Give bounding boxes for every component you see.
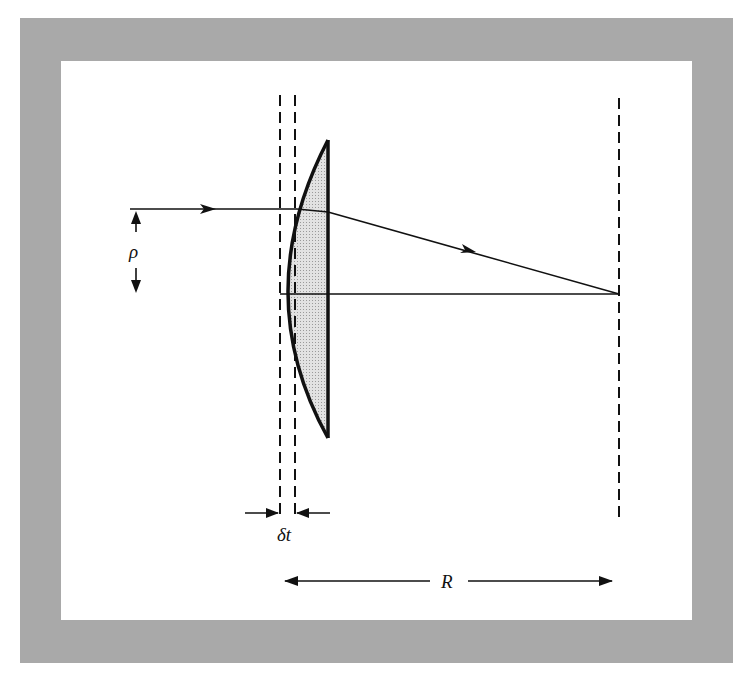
lens-diagram: ρ δt R bbox=[0, 0, 756, 689]
r-arrow-right-icon bbox=[599, 576, 613, 586]
rho-arrow-up-icon bbox=[131, 211, 141, 224]
rho-label: ρ bbox=[128, 241, 138, 262]
refracted-ray-arrow-icon bbox=[460, 244, 476, 253]
r-label: R bbox=[440, 571, 453, 592]
delta-t-arrow-left-icon bbox=[296, 508, 309, 518]
rho-arrow-down-icon bbox=[131, 280, 141, 293]
delta-t-label: δt bbox=[277, 524, 292, 545]
r-arrow-left-icon bbox=[284, 576, 298, 586]
refracted-ray bbox=[328, 212, 619, 294]
delta-t-arrow-right-icon bbox=[266, 508, 279, 518]
